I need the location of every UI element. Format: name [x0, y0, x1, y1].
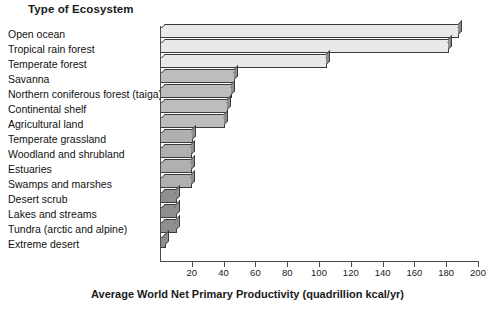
- bar: [160, 132, 193, 143]
- x-axis-tick-label: 120: [343, 267, 359, 278]
- category-label: Continental shelf: [8, 102, 158, 117]
- category-label: Temperate forest: [8, 57, 158, 72]
- x-axis-tick-label: 20: [187, 267, 198, 278]
- bar: [160, 192, 177, 203]
- category-label: Northern coniferous forest (taiga): [8, 87, 158, 102]
- bar-top-face: [161, 159, 195, 163]
- bar: [160, 72, 235, 83]
- bar-top-face: [161, 99, 231, 103]
- category-label: Lakes and streams: [8, 207, 158, 222]
- bar: [160, 102, 228, 113]
- bar-chart: Type of Ecosystem Open oceanTropical rai…: [0, 0, 495, 315]
- category-label: Savanna: [8, 72, 158, 87]
- bar: [160, 207, 177, 218]
- x-axis-tick-label: 200: [470, 267, 486, 278]
- bar-right-face: [227, 95, 231, 110]
- bar: [160, 117, 225, 128]
- bar-right-face: [458, 20, 462, 35]
- bar-top-face: [161, 174, 195, 178]
- x-axis-tick-label: 60: [250, 267, 261, 278]
- x-axis-tick-label: 160: [406, 267, 422, 278]
- category-label: Tundra (arctic and alpine): [8, 222, 158, 237]
- x-axis-tick-label: 180: [438, 267, 454, 278]
- x-axis-tick-label: 80: [282, 267, 293, 278]
- category-label: Desert scrub: [8, 192, 158, 207]
- bar-right-face: [165, 230, 169, 245]
- bar-right-face: [448, 35, 452, 50]
- bar-right-face: [231, 80, 235, 95]
- category-label: Swamps and marshes: [8, 177, 158, 192]
- bar: [160, 87, 232, 98]
- bar-right-face: [191, 140, 195, 155]
- bar-row: [160, 131, 478, 146]
- bar-right-face: [224, 110, 228, 125]
- bar-right-face: [176, 185, 180, 200]
- bar-right-face: [192, 125, 196, 140]
- bar-right-face: [191, 170, 195, 185]
- bar-top-face: [161, 24, 462, 28]
- plot-area: [160, 26, 478, 262]
- bar: [160, 162, 192, 173]
- bar-right-face: [326, 50, 330, 65]
- bar-right-face: [176, 200, 180, 215]
- bar-row: [160, 191, 478, 206]
- bar-top-face: [161, 84, 235, 88]
- category-label: Extreme desert: [8, 237, 158, 252]
- x-axis-title: Average World Net Primary Productivity (…: [0, 288, 495, 300]
- bar-top-face: [161, 39, 452, 43]
- bar-row: [160, 221, 478, 236]
- bar: [160, 57, 327, 68]
- category-axis-labels: Open oceanTropical rain forestTemperate …: [8, 27, 158, 252]
- bar-right-face: [176, 215, 180, 230]
- category-label: Temperate grassland: [8, 132, 158, 147]
- chart-title: Type of Ecosystem: [28, 3, 134, 15]
- bar-row: [160, 146, 478, 161]
- bar-row: [160, 161, 478, 176]
- bar-right-face: [191, 155, 195, 170]
- bar-row: [160, 116, 478, 131]
- bar-right-face: [234, 65, 238, 80]
- bar-top-face: [161, 69, 238, 73]
- bar: [160, 147, 192, 158]
- category-label: Woodland and shrubland: [8, 147, 158, 162]
- category-label: Estuaries: [8, 162, 158, 177]
- x-axis-tick-label: 100: [311, 267, 327, 278]
- category-label: Open ocean: [8, 27, 158, 42]
- category-label: Agricultural land: [8, 117, 158, 132]
- bar-top-face: [161, 144, 195, 148]
- x-axis-tick-label: 40: [218, 267, 229, 278]
- bar-row: [160, 176, 478, 191]
- x-axis-tick-label: 140: [375, 267, 391, 278]
- bar-top-face: [161, 54, 330, 58]
- bar: [160, 177, 192, 188]
- bar-top-face: [161, 114, 228, 118]
- category-label: Tropical rain forest: [8, 42, 158, 57]
- y-axis-line: [160, 26, 161, 262]
- bar-row: [160, 206, 478, 221]
- bar-row: [160, 236, 478, 251]
- bar: [160, 42, 449, 53]
- bar: [160, 27, 459, 38]
